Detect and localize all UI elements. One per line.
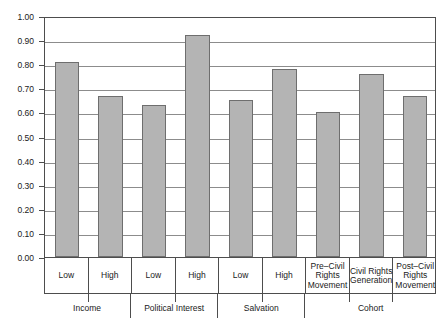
category-label: High <box>89 258 133 294</box>
group-axis: IncomePolitical InterestSalvationCohort <box>44 294 436 318</box>
group-divider-tick <box>175 294 176 302</box>
y-axis-tick-label: 0.00 <box>4 254 34 263</box>
bar <box>359 74 383 257</box>
bar <box>316 112 340 257</box>
y-axis-tick-label: 1.00 <box>4 13 34 22</box>
category-label: Post–CivilRightsMovement <box>393 258 437 294</box>
group-divider-tick <box>349 294 350 302</box>
y-axis-tick-label: 0.70 <box>4 85 34 94</box>
category-label: High <box>176 258 220 294</box>
group-divider-tick <box>262 294 263 302</box>
gridline <box>45 42 435 43</box>
category-label: Pre–CivilRightsMovement <box>306 258 350 294</box>
y-axis-tick-label: 0.50 <box>4 133 34 142</box>
bar <box>98 96 122 257</box>
y-axis-tick-label: 0.90 <box>4 37 34 46</box>
bar <box>272 69 296 257</box>
bar <box>55 62 79 257</box>
y-axis-tick-label: 0.30 <box>4 181 34 190</box>
bar <box>185 35 209 257</box>
y-axis-tick-label: 0.10 <box>4 230 34 239</box>
y-axis-tick-labels: 1.000.900.800.700.600.500.400.300.200.10… <box>4 0 34 320</box>
group-label: Cohort <box>305 294 436 318</box>
bar <box>142 105 166 257</box>
bar <box>229 100 253 257</box>
y-axis-tick-label: 0.80 <box>4 61 34 70</box>
category-label: Low <box>45 258 89 294</box>
plot-area <box>44 17 436 258</box>
group-divider-tick <box>392 294 393 302</box>
category-axis: LowHighLowHighLowHighPre–CivilRightsMove… <box>44 258 436 294</box>
category-label: Low <box>132 258 176 294</box>
category-label: High <box>263 258 307 294</box>
group-divider-tick <box>88 294 89 302</box>
bar-chart: 1.000.900.800.700.600.500.400.300.200.10… <box>0 0 442 320</box>
y-axis-tick-label: 0.40 <box>4 157 34 166</box>
y-axis-tick-label: 0.60 <box>4 109 34 118</box>
category-label: Civil RightsGeneration <box>350 258 394 294</box>
bar <box>403 96 427 257</box>
category-label: Low <box>219 258 263 294</box>
y-axis-tick-label: 0.20 <box>4 206 34 215</box>
gridline <box>45 66 435 67</box>
